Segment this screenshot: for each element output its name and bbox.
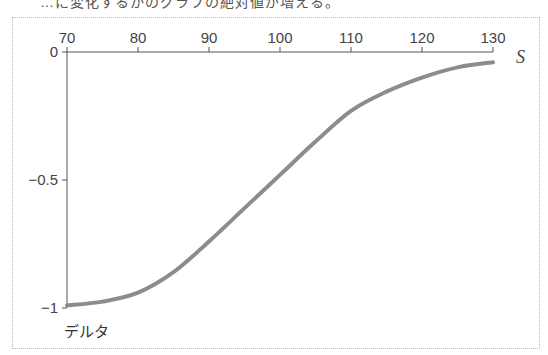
x-tick-label: 100	[267, 29, 292, 46]
y-tick-label: 0	[50, 43, 58, 60]
delta-curve	[67, 62, 493, 305]
x-tick-label: 130	[480, 29, 505, 46]
y-axis-title: デルタ	[64, 323, 109, 341]
y-tick-label: −1	[41, 299, 58, 316]
x-axis-title: S	[516, 47, 525, 67]
x-tick-label: 120	[409, 29, 434, 46]
x-tick-label: 90	[201, 29, 218, 46]
x-tick-label: 110	[339, 29, 363, 46]
x-tick-label: 80	[130, 29, 147, 46]
x-tick-label: 70	[59, 29, 76, 46]
y-tick-label: −0.5	[28, 171, 58, 188]
delta-chart: 7080901001101201300−0.5−1Sデルタ	[0, 0, 548, 355]
